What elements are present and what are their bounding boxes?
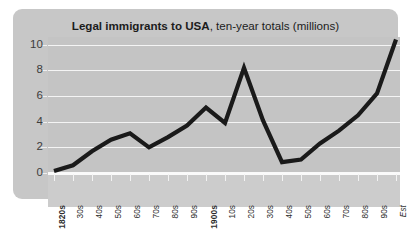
x-axis-label-40s: 40s	[286, 205, 294, 208]
x-axis-tick-80s	[358, 174, 359, 181]
x-axis-tick-30s	[263, 174, 264, 181]
x-axis-label-80s: 80s	[172, 205, 180, 208]
x-axis-tick-30s	[73, 174, 74, 181]
x-axis-tick-90s	[187, 174, 188, 181]
x-axis-tick-10s	[225, 174, 226, 181]
x-axis-label-90s: 90s	[191, 205, 199, 208]
x-axis-label-20s: 20s	[248, 205, 256, 208]
chart-figure: Legal immigrants to USA, ten-year totals…	[0, 0, 411, 208]
x-axis-label-70s: 70s	[343, 205, 351, 208]
y-axis-label-0: 0	[21, 167, 43, 179]
x-axis-label-1820s: 1820s	[58, 205, 66, 208]
x-axis-label-60s: 60s	[324, 205, 332, 208]
x-axis-tick-50s	[111, 174, 112, 181]
chart-title: Legal immigrants to USA, ten-year totals…	[13, 20, 398, 33]
x-axis-label-1900s: 1900s	[210, 205, 218, 208]
plot-area	[48, 37, 400, 173]
y-axis-label-4: 4	[21, 116, 43, 128]
chart-title-light: , ten-year totals (millions)	[210, 19, 340, 32]
x-axis-line	[48, 173, 400, 175]
x-axis-tick-70s	[149, 174, 150, 181]
x-axis-tick-40s	[282, 174, 283, 181]
x-axis-band: 1820s30s40s50s60s70s80s90s1900s10s20s30s…	[48, 173, 400, 207]
x-axis-label-50s: 50s	[115, 205, 123, 208]
x-axis-tick-50s	[301, 174, 302, 181]
x-axis-label-90s: 90s	[381, 205, 389, 208]
x-axis-tick-60s	[130, 174, 131, 181]
x-axis-tick-40s	[92, 174, 93, 181]
x-axis-tick-70s	[339, 174, 340, 181]
x-axis-label-60s: 60s	[134, 205, 142, 208]
y-axis-label-2: 2	[21, 141, 43, 153]
x-axis-tick-Est	[396, 174, 397, 181]
x-axis-tick-1820s	[54, 174, 55, 181]
y-axis-label-8: 8	[21, 64, 43, 76]
x-axis-label-70s: 70s	[153, 205, 161, 208]
x-axis-label-40s: 40s	[96, 205, 104, 208]
x-axis-label-50s: 50s	[305, 205, 313, 208]
x-axis-tick-60s	[320, 174, 321, 181]
x-axis-label-Est: Est	[400, 205, 408, 208]
x-axis-tick-1900s	[206, 174, 207, 181]
x-axis-label-30s: 30s	[267, 205, 275, 208]
y-axis-labels: 0246810	[18, 37, 43, 173]
x-axis-label-30s: 30s	[77, 205, 85, 208]
chart-title-strong: Legal immigrants to USA	[72, 19, 210, 32]
x-axis-tick-20s	[244, 174, 245, 181]
data-line-layer	[48, 37, 400, 173]
x-axis-tick-90s	[377, 174, 378, 181]
immigrants-line-series	[54, 40, 396, 172]
x-axis-tick-80s	[168, 174, 169, 181]
y-axis-label-6: 6	[21, 90, 43, 102]
y-axis-label-10: 10	[21, 39, 43, 51]
x-axis-label-80s: 80s	[362, 205, 370, 208]
chart-panel: Legal immigrants to USA, ten-year totals…	[13, 9, 398, 199]
x-axis-label-10s: 10s	[229, 205, 237, 208]
